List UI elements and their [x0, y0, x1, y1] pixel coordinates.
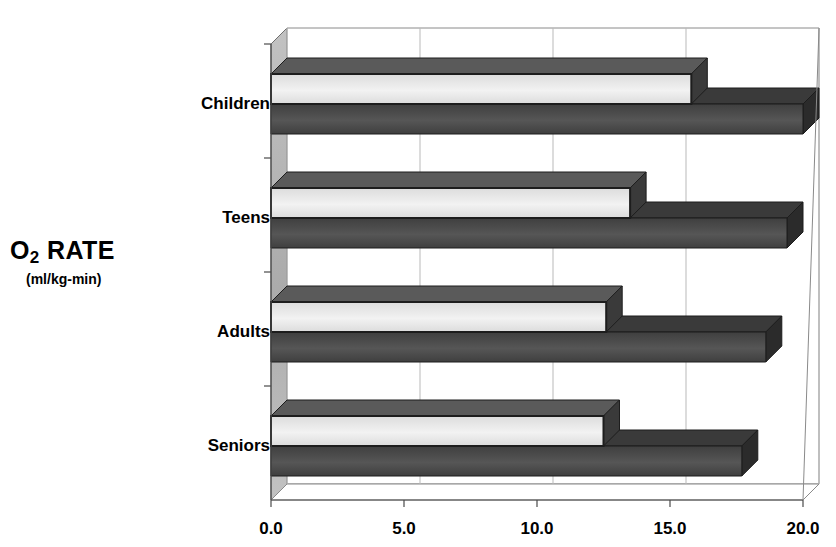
bar-dark-face-1 [271, 218, 787, 248]
bar-light-face-1 [271, 188, 630, 218]
bar-light-top-2 [271, 286, 622, 302]
plot-svg [271, 8, 819, 500]
x-axis-tick-labels: 0.05.010.015.020.0 [0, 508, 836, 547]
bar-dark-face-2 [271, 332, 766, 362]
bar-light-face-3 [271, 416, 604, 446]
x-axis-tick-label-4: 20.0 [786, 520, 819, 537]
y-axis-title-rest: RATE [40, 236, 115, 264]
x-axis-tick-label-2: 10.0 [520, 520, 553, 537]
category-label-children: Children [130, 95, 270, 112]
bar-light-top-0 [271, 58, 707, 74]
plot-floor [271, 484, 819, 500]
bar-light-top-1 [271, 172, 646, 188]
bar-dark-face-0 [271, 104, 803, 134]
category-label-seniors: Seniors [130, 437, 270, 454]
bar-light-face-2 [271, 302, 606, 332]
y-axis-title-main: O [10, 236, 30, 264]
category-axis-labels: ChildrenTeensAdultsSeniors [125, 0, 270, 547]
plot-area [271, 8, 819, 500]
bar-light-face-0 [271, 74, 691, 104]
category-label-teens: Teens [130, 209, 270, 226]
x-axis-tick-label-3: 15.0 [653, 520, 686, 537]
x-axis-tick-label-1: 5.0 [392, 520, 416, 537]
chart-root: O2 RATE (ml/kg-min) ChildrenTeensAdultsS… [0, 0, 836, 547]
x-axis-tick-label-0: 0.0 [259, 520, 283, 537]
bar-light-top-3 [271, 400, 620, 416]
bar-dark-face-3 [271, 446, 742, 476]
y-axis-title-subscript: 2 [30, 248, 40, 267]
category-label-adults: Adults [130, 323, 270, 340]
